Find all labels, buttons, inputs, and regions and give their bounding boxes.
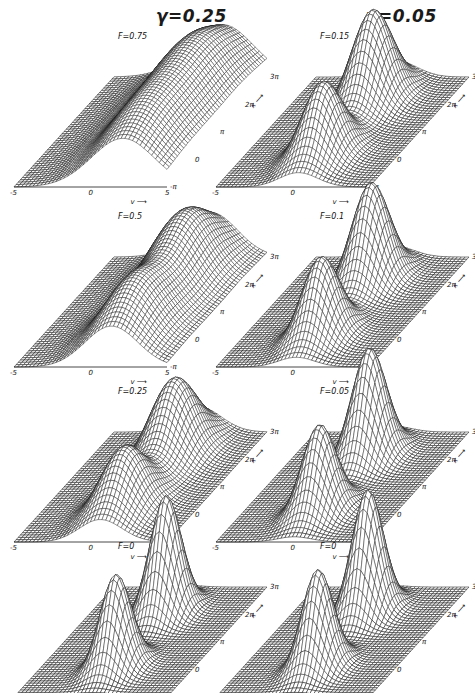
x-tick-label: π: [422, 128, 426, 136]
surface-plot-panel: F=0.05-505v ⟶-π0π2π3πx ⟶: [202, 385, 439, 557]
v-tick-label: 5: [165, 189, 169, 197]
wireframe-surface: [202, 210, 439, 382]
v-tick-label: -5: [10, 369, 17, 377]
surface-plot-panel: F=0.1-505v ⟶-π0π2π3πx ⟶: [202, 210, 439, 382]
x-tick-label: π: [422, 308, 426, 316]
x-tick-label: 0: [397, 336, 401, 344]
x-tick-label: 0: [397, 156, 401, 164]
force-parameter-label: F=0.05: [320, 387, 349, 396]
force-parameter-label: F=0.1: [320, 212, 344, 221]
surface-plot-panel: F=0-505v ⟶-π0π2π3πx ⟶: [202, 540, 439, 693]
x-tick-label: 0: [397, 511, 401, 519]
x-tick-label: π: [422, 638, 426, 646]
v-tick-label: 0: [89, 369, 93, 377]
force-parameter-label: F=0: [118, 542, 134, 551]
column-title-gamma-0.25: γ=0.25: [156, 6, 227, 26]
x-tick-label: -π: [170, 363, 177, 371]
x-tick-label: 0: [195, 666, 199, 674]
wireframe-surface: [202, 540, 439, 693]
v-tick-label: 5: [165, 369, 169, 377]
x-tick-label: 0: [397, 666, 401, 674]
v-tick-label: -5: [212, 369, 219, 377]
v-axis-label: v ⟶: [131, 198, 147, 206]
force-parameter-label: F=0.25: [118, 387, 147, 396]
v-tick-label: 0: [291, 189, 295, 197]
x-tick-label: -π: [170, 183, 177, 191]
v-tick-label: -5: [212, 189, 219, 197]
x-tick-label: 0: [195, 336, 199, 344]
wireframe-surface: [202, 385, 439, 557]
force-parameter-label: F=0.75: [118, 32, 147, 41]
v-axis-label: v ⟶: [333, 198, 349, 206]
surface-plot-panel: F=0.15-505v ⟶-π0π2π3πx ⟶: [202, 30, 439, 202]
x-tick-label: 0: [195, 156, 199, 164]
force-parameter-label: F=0.15: [320, 32, 349, 41]
wireframe-surface: [202, 30, 439, 202]
force-parameter-label: F=0.5: [118, 212, 142, 221]
v-tick-label: 0: [291, 369, 295, 377]
x-tick-label: π: [422, 483, 426, 491]
force-parameter-label: F=0: [320, 542, 336, 551]
v-tick-label: -5: [10, 189, 17, 197]
x-tick-label: 0: [195, 511, 199, 519]
v-tick-label: 0: [89, 189, 93, 197]
